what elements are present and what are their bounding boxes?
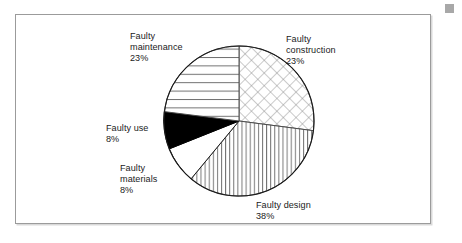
chart-frame: Faulty maintenance 23% Faulty constructi…	[15, 14, 431, 224]
slice-label-line2: construction	[286, 45, 336, 56]
slice-label-percent: 8%	[106, 134, 148, 145]
slice-label-line1: Faulty	[286, 34, 336, 45]
slice-label-line1: Faulty design	[256, 200, 311, 211]
slice-label-line2: materials	[120, 174, 157, 185]
slice-label-faulty-construction: Faulty construction 23%	[286, 34, 336, 68]
slice-label-percent: 23%	[130, 53, 183, 64]
corner-marker-icon	[445, 4, 454, 13]
page-canvas: Faulty maintenance 23% Faulty constructi…	[0, 0, 462, 243]
slice-label-percent: 23%	[286, 56, 336, 67]
slice-label-faulty-maintenance: Faulty maintenance 23%	[130, 31, 183, 65]
slice-label-line1: Faulty	[130, 31, 183, 42]
slice-label-line1: Faulty use	[106, 123, 148, 134]
pie-chart-svg	[16, 15, 432, 225]
slice-label-line2: maintenance	[130, 42, 183, 53]
slice-label-faulty-use: Faulty use 8%	[106, 123, 148, 145]
pie-chart: Faulty maintenance 23% Faulty constructi…	[16, 15, 432, 225]
slice-label-percent: 8%	[120, 185, 157, 196]
slice-label-faulty-materials: Faulty materials 8%	[120, 163, 157, 197]
slice-label-faulty-design: Faulty design 38%	[256, 200, 311, 222]
slice-label-percent: 38%	[256, 211, 311, 222]
slice-label-line1: Faulty	[120, 163, 157, 174]
